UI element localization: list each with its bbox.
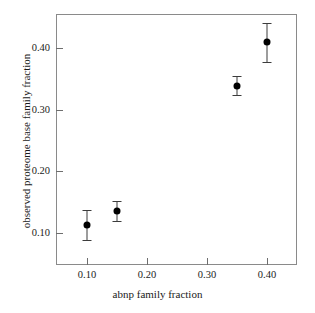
error-bar-cap: [83, 240, 92, 241]
error-bar-cap: [113, 201, 122, 202]
x-axis-title: abnp family fraction: [0, 288, 315, 300]
data-point: [234, 82, 241, 89]
error-bar-cap: [263, 62, 272, 63]
data-point: [84, 221, 91, 228]
y-axis-title: observed proteome base family fraction: [20, 31, 32, 251]
error-bar-cap: [233, 76, 242, 77]
data-point: [264, 39, 271, 46]
error-bar-cap: [83, 210, 92, 211]
chart-figure: 0.100.200.300.40 0.100.200.300.40 abnp f…: [0, 0, 315, 313]
error-bar-cap: [233, 95, 242, 96]
data-point: [114, 207, 121, 214]
error-bar-cap: [113, 221, 122, 222]
error-bar-cap: [263, 23, 272, 24]
data-series-layer: [0, 0, 315, 313]
